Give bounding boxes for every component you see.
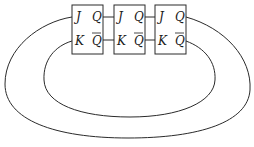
q-output-label: Q <box>134 10 144 24</box>
q-output-label: Q <box>92 10 102 24</box>
jk-flipflop-ring-diagram: J K Q Q J K Q Q J K Q Q <box>0 0 254 147</box>
flip-flop-1: J K Q Q <box>72 5 103 54</box>
qbar-output-label: Q <box>92 34 102 48</box>
k-input-label: K <box>116 34 127 48</box>
flip-flop-3: J K Q Q <box>155 5 186 54</box>
q-output-label: Q <box>175 10 185 24</box>
k-input-label: K <box>74 34 85 48</box>
k-input-label: K <box>157 34 168 48</box>
flip-flop-2: J K Q Q <box>114 5 145 54</box>
qbar-output-label: Q <box>134 34 144 48</box>
qbar-output-label: Q <box>175 34 185 48</box>
